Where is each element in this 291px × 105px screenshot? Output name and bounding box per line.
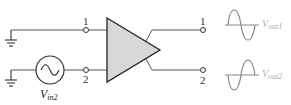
input-1-terminal — [84, 28, 89, 33]
output-1-terminal — [201, 28, 206, 33]
input-2-ground-icon — [5, 70, 17, 86]
input-1-label: 1 — [83, 15, 89, 27]
input-1-ground-icon — [5, 30, 17, 46]
vin2-label: Vin2 — [40, 87, 58, 102]
vout1-label: Vout1 — [262, 18, 282, 31]
schematic: 1 2 Vin2 1 2 Vout1 Vout2 — [0, 0, 291, 105]
input-2-label: 2 — [83, 73, 89, 85]
vout2-label: Vout2 — [262, 68, 282, 81]
amplifier-triangle-icon — [107, 18, 160, 82]
output-2-label: 2 — [200, 74, 206, 86]
ac-source-icon — [36, 56, 64, 84]
output-2-terminal — [201, 68, 206, 73]
vout2-waveform-icon — [225, 60, 259, 90]
input-2-terminal — [84, 68, 89, 73]
output-1-wire — [146, 30, 200, 41]
output-1-label: 1 — [200, 15, 206, 27]
output-2-wire — [146, 59, 200, 70]
vout1-waveform-icon — [225, 10, 259, 40]
diff-amp-diagram: 1 2 Vin2 1 2 Vout1 Vout2 — [0, 0, 291, 105]
